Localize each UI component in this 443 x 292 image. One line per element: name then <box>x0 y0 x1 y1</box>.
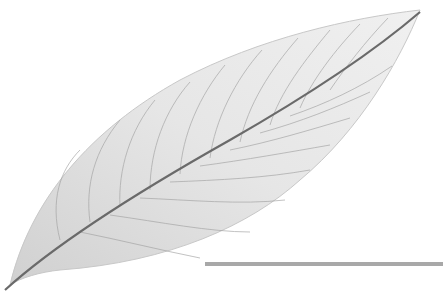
leaf-illustration <box>0 0 443 292</box>
horizontal-bar <box>205 262 443 266</box>
leaf-image <box>0 0 443 292</box>
